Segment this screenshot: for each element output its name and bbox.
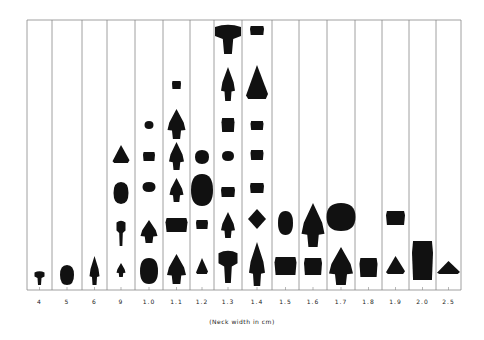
tick-label: 5 [65,298,70,305]
tick-label: 1.1 [170,298,183,305]
artifact-block-icon [251,121,264,130]
artifact-point-icon [329,247,353,285]
artifact-stem-icon [35,271,45,285]
artifact-block-icon [304,258,322,275]
tick-label: 1.3 [222,298,235,305]
tick-label: 6 [92,298,97,305]
tick-label: 1.6 [307,298,320,305]
artifact-blob-icon [60,265,74,285]
artifact-blob-icon [278,211,293,235]
artifact-point-icon [168,109,186,139]
artifact-block-icon [166,218,188,232]
artifact-blob-icon [191,174,213,206]
tick-label: 1.0 [143,298,156,305]
artifact-point-icon [170,178,184,202]
tick-label: 2.0 [416,298,429,305]
artifact-blob-icon [114,182,129,204]
artifact-point-icon [90,256,100,285]
artifact-blob-icon [222,151,234,161]
artifact-triangle-icon [386,256,405,274]
tick-label: 1.2 [196,298,209,305]
artifact-stem-icon [219,251,238,283]
artifact-block-icon [196,220,208,229]
artifact-block-icon [143,152,155,161]
artifact-block-icon [275,257,297,275]
tick-label: 1.8 [362,298,375,305]
tick-label: 1.5 [279,298,292,305]
artifact-triangle-icon [113,145,130,163]
artifact-block-icon [172,81,181,89]
tick-label: 1.4 [251,298,264,305]
tick-label: 2.5 [442,298,455,305]
artifact-blob-icon [195,150,209,164]
artifact-silhouettes [35,25,461,286]
artifact-block-icon [250,183,264,193]
x-axis-ticks [40,287,449,290]
artifact-point-icon [221,67,235,101]
artifact-block-icon [221,187,235,197]
tick-label: 4 [37,298,42,305]
artifact-point-icon [167,254,186,284]
tick-label: 1.7 [335,298,348,305]
artifact-stem-icon [117,221,126,246]
artifact-stem-icon [215,25,241,54]
artifact-point-icon [169,142,184,170]
chart-frame [27,20,461,290]
artifact-block-icon [412,241,433,280]
artifact-blob-icon [143,182,156,192]
artifact-point-icon [249,242,265,286]
artifact-point-icon [117,263,126,277]
artifact-point-icon [141,220,158,243]
artifact-block-icon [250,26,264,35]
artifact-point-icon [302,203,325,247]
artifact-point-icon [221,212,235,238]
artifact-triangle-icon [437,261,460,274]
artifact-blob-icon [327,203,356,231]
x-axis-label: (Neck width in cm) [0,318,484,325]
artifact-histogram-chart [0,0,484,340]
artifact-block-icon [222,118,235,132]
tick-label: 1.9 [389,298,402,305]
artifact-block-icon [360,258,378,277]
artifact-block-icon [386,211,405,225]
artifact-blob-icon [145,121,154,129]
artifact-diamond-icon [248,209,266,229]
artifact-triangle-icon [246,65,268,99]
artifact-block-icon [251,150,264,160]
artifact-triangle-icon [196,258,208,274]
tick-label: 9 [119,298,124,305]
artifact-blob-icon [140,258,158,284]
